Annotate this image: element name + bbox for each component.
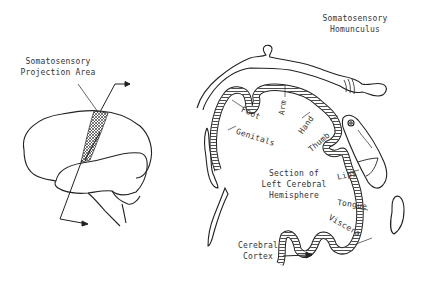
- cerebral-cortex-line2: Cortex: [228, 251, 288, 262]
- somatosensory-diagram: Somatosensory Homunculus Somatosensory P…: [0, 0, 435, 295]
- cerebral-cortex-line1: Cerebral: [228, 240, 288, 251]
- homunculus-title-line1: Somatosensory: [300, 13, 410, 24]
- projection-area-line1: Somatosensory: [8, 56, 108, 67]
- homunculus-figure: [197, 45, 404, 246]
- homunculus-title-line2: Homunculus: [300, 24, 410, 35]
- cerebral-cortex-label: Cerebral Cortex: [228, 240, 288, 262]
- section-title: Section of Left Cerebral Hemisphere: [254, 168, 334, 201]
- section-title-line3: Hemisphere: [254, 190, 334, 201]
- projection-area-title: Somatosensory Projection Area: [8, 56, 108, 78]
- projection-area-strip: [81, 111, 108, 162]
- section-plane-arrows: [60, 82, 130, 227]
- diagram-artwork: [0, 0, 435, 295]
- lateral-brain: [23, 111, 151, 226]
- projection-area-line2: Projection Area: [8, 67, 108, 78]
- homunculus-title: Somatosensory Homunculus: [300, 13, 410, 35]
- section-title-line1: Section of: [254, 168, 334, 179]
- section-title-line2: Left Cerebral: [254, 179, 334, 190]
